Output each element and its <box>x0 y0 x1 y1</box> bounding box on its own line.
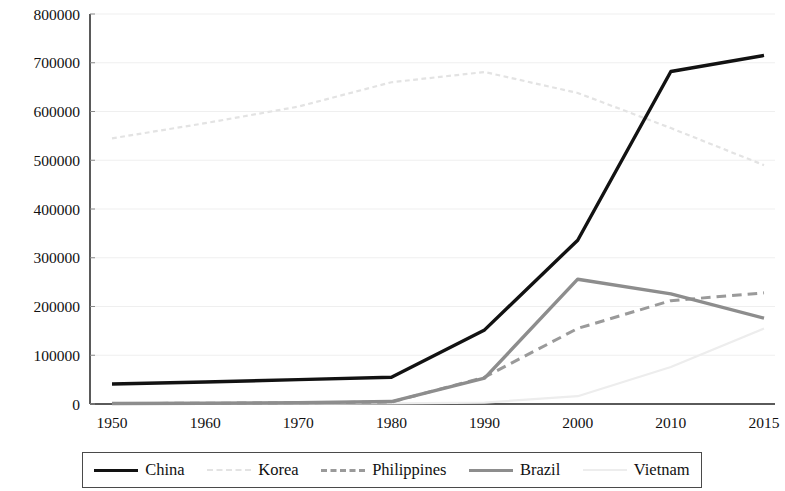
y-axis-tick-label: 0 <box>72 396 80 413</box>
chart-plot-area: 0100000200000300000400000500000600000700… <box>0 0 785 440</box>
y-axis-tick-label: 100000 <box>34 347 81 364</box>
x-axis-tick-label: 1970 <box>283 414 314 431</box>
y-axis-tick-label: 800000 <box>34 6 81 23</box>
y-axis-tick-label: 300000 <box>34 249 81 266</box>
legend-item-brazil[interactable]: Brazil <box>467 462 562 479</box>
legend-label-vietnam: Vietnam <box>634 462 690 479</box>
legend-label-philippines: Philippines <box>372 462 446 479</box>
legend-item-vietnam[interactable]: Vietnam <box>581 462 692 479</box>
y-axis-tick-label: 200000 <box>34 298 81 315</box>
x-axis-tick-label: 1950 <box>97 414 128 431</box>
chart-legend: China Korea Philippines Brazil Vietnam <box>82 452 702 488</box>
x-axis-tick-label: 1980 <box>376 414 407 431</box>
legend-label-brazil: Brazil <box>520 462 560 479</box>
legend-swatch-korea <box>207 469 251 471</box>
legend-swatch-china <box>94 469 138 472</box>
x-axis-tick-label: 1960 <box>190 414 221 431</box>
x-axis-tick-label: 2010 <box>655 414 686 431</box>
y-axis-tick-label: 600000 <box>34 103 81 120</box>
series-line-china <box>112 55 764 384</box>
legend-label-korea: Korea <box>258 462 298 479</box>
x-axis-tick-label: 2015 <box>749 414 780 431</box>
series-line-korea <box>112 72 764 165</box>
legend-item-philippines[interactable]: Philippines <box>319 462 448 479</box>
legend-item-china[interactable]: China <box>92 462 186 479</box>
y-axis-tick-label: 400000 <box>34 201 81 218</box>
series-line-brazil <box>112 279 764 403</box>
legend-swatch-vietnam <box>583 469 627 471</box>
y-axis-tick-label: 500000 <box>34 152 81 169</box>
series-line-vietnam <box>112 328 764 403</box>
x-axis-tick-label: 2000 <box>562 414 593 431</box>
x-axis-tick-label: 1990 <box>469 414 500 431</box>
legend-swatch-philippines <box>321 469 365 472</box>
legend-label-china: China <box>145 462 184 479</box>
y-axis-tick-label: 700000 <box>34 54 81 71</box>
legend-item-korea[interactable]: Korea <box>205 462 300 479</box>
line-chart: 0100000200000300000400000500000600000700… <box>0 0 785 440</box>
series-line-philippines <box>112 293 764 404</box>
legend-swatch-brazil <box>469 469 513 472</box>
chart-page: 0100000200000300000400000500000600000700… <box>0 0 785 491</box>
